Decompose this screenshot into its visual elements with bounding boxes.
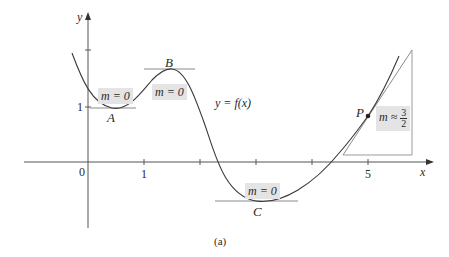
slope-label-c: m = 0 [245,183,280,199]
x-tick-label-5: 5 [365,168,371,180]
x-tick-label-1: 1 [141,168,147,180]
origin-label: 0 [79,166,85,178]
point-c-label: C [253,205,262,218]
y-axis-label: y [77,11,82,23]
slope-p-prefix: m ≈ [379,110,397,124]
x-axis-label: x [420,166,425,178]
x-axis-arrow-icon [426,159,434,165]
function-label: y = f(x) [215,97,251,109]
figure-caption: (a) [214,236,226,247]
slope-label-b: m = 0 [152,84,187,100]
slope-p-denominator: 2 [401,119,406,129]
point-b-label: B [165,56,173,69]
tangent-lines [90,50,412,201]
slope-label-a: m = 0 [98,88,133,104]
tangent-at-p [343,50,412,155]
point-p-marker [366,114,371,119]
point-a-label: A [107,111,115,124]
slope-p-fraction: 3 2 [400,108,407,129]
slope-label-p: m ≈ 3 2 [376,106,410,131]
point-p-label: P [356,106,364,119]
axes [24,18,428,228]
y-tick-label-1: 1 [77,101,83,113]
function-curve [72,53,399,201]
y-axis-arrow-icon [85,12,91,20]
